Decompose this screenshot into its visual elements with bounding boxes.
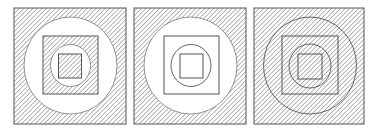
- outer-square: [254, 8, 364, 124]
- inner-square: [180, 54, 203, 78]
- panel-3: [254, 8, 364, 124]
- nested-shapes-figure: [0, 0, 375, 133]
- inner-square: [59, 54, 82, 78]
- panel-2: [134, 8, 246, 124]
- panel-1: [14, 8, 126, 124]
